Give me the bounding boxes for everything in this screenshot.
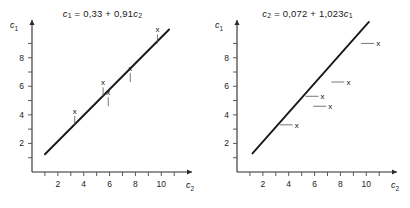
left-x-axis-arrow bbox=[187, 169, 192, 174]
right-y-tick-label: 8 bbox=[224, 53, 229, 63]
right-data-point-marker: x bbox=[346, 78, 350, 87]
panel-right-plot: 2468102468c1c2xxxxx bbox=[205, 0, 410, 208]
right-y-tick-label: 6 bbox=[224, 81, 229, 91]
left-x-tick-label: 6 bbox=[107, 179, 112, 189]
right-x-tick-label: 6 bbox=[312, 179, 317, 189]
left-data-point-marker: x bbox=[155, 25, 159, 34]
right-y-axis-arrow bbox=[234, 20, 239, 25]
right-x-axis-label: c2 bbox=[391, 180, 400, 192]
right-x-tick-label: 10 bbox=[362, 179, 372, 189]
left-data-point-marker: x bbox=[73, 107, 77, 116]
right-data-point-marker: x bbox=[376, 39, 380, 48]
panel-left-plot: 2468102468c1c2xxxxx bbox=[0, 0, 205, 208]
left-y-tick-label: 6 bbox=[19, 81, 24, 91]
right-data-point-marker: x bbox=[321, 92, 325, 101]
right-y-tick-label: 2 bbox=[224, 138, 229, 148]
regression-figure: c1 = 0,33 + 0,91c2 2468102468c1c2xxxxx c… bbox=[0, 0, 410, 208]
left-x-tick-label: 10 bbox=[157, 179, 167, 189]
panel-right: c2 = 0,072 + 1,023c1 2468102468c1c2xxxxx bbox=[205, 0, 410, 208]
left-x-tick-label: 4 bbox=[81, 179, 86, 189]
left-data-point-marker: x bbox=[106, 88, 110, 97]
right-data-point-marker: x bbox=[328, 102, 332, 111]
right-x-axis-arrow bbox=[392, 169, 397, 174]
left-y-tick-label: 2 bbox=[19, 138, 24, 148]
left-data-point-marker: x bbox=[101, 78, 105, 87]
left-y-tick-label: 4 bbox=[19, 110, 24, 120]
left-x-axis-label: c2 bbox=[186, 180, 195, 192]
right-x-tick-label: 8 bbox=[338, 179, 343, 189]
left-x-tick-label: 2 bbox=[55, 179, 60, 189]
right-y-tick-label: 4 bbox=[224, 110, 229, 120]
panel-left: c1 = 0,33 + 0,91c2 2468102468c1c2xxxxx bbox=[0, 0, 205, 208]
left-x-tick-label: 8 bbox=[133, 179, 138, 189]
right-x-tick-label: 2 bbox=[260, 179, 265, 189]
left-data-point-marker: x bbox=[128, 64, 132, 73]
right-y-axis-label: c1 bbox=[215, 20, 224, 32]
left-y-axis-arrow bbox=[29, 20, 34, 25]
left-y-tick-label: 8 bbox=[19, 53, 24, 63]
left-y-axis-label: c1 bbox=[10, 20, 19, 32]
right-regression-line bbox=[253, 22, 369, 154]
right-x-tick-label: 4 bbox=[286, 179, 291, 189]
right-data-point-marker: x bbox=[295, 121, 299, 130]
